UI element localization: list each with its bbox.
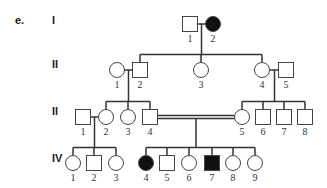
individual-III-6: 6 <box>256 110 271 137</box>
generation-labels: IIIIIIV <box>52 14 63 164</box>
individual-IV-9: 9 <box>248 156 263 183</box>
individual-IV-6: 6 <box>182 156 197 183</box>
individual-III-8: 8 <box>298 110 313 137</box>
female-circle-icon <box>226 156 241 171</box>
male-square-icon <box>298 110 313 125</box>
individual-number: 8 <box>303 126 308 137</box>
individual-number: 6 <box>261 126 266 137</box>
individual-number: 5 <box>284 79 289 90</box>
individual-III-5: 5 <box>235 110 250 137</box>
individual-number: 2 <box>211 33 216 44</box>
male-square-icon <box>279 63 294 78</box>
individual-number: 1 <box>81 126 86 137</box>
individual-II-5: 5 <box>279 63 294 90</box>
individual-number: 4 <box>260 79 265 90</box>
individual-II-3: 3 <box>194 63 209 90</box>
female-circle-icon <box>66 156 81 171</box>
male-square-icon <box>143 110 158 125</box>
male-square-icon <box>277 110 292 125</box>
individual-number: 2 <box>138 79 143 90</box>
female-circle-icon <box>182 156 197 171</box>
female-circle-icon <box>109 156 124 171</box>
individual-number: 4 <box>144 172 149 183</box>
male-square-icon <box>183 17 198 32</box>
part-label: e. <box>15 14 24 26</box>
individual-I-2: 2 <box>206 17 221 44</box>
individual-IV-4: 4 <box>139 156 154 183</box>
male-square-icon <box>76 110 91 125</box>
individual-number: 1 <box>71 172 76 183</box>
individual-number: 1 <box>115 79 120 90</box>
individual-IV-3: 3 <box>109 156 124 183</box>
generation-label: II <box>52 58 58 70</box>
individual-III-4: 4 <box>143 110 158 137</box>
affected-female-circle-icon <box>206 17 221 32</box>
individual-number: 3 <box>199 79 204 90</box>
individual-number: 7 <box>282 126 287 137</box>
pedigree-figure: e. IIIIIIV 121234512345678123456789 <box>0 0 327 188</box>
individual-number: 2 <box>104 126 109 137</box>
individual-III-2: 2 <box>99 110 114 137</box>
individual-number: 2 <box>92 172 97 183</box>
generation-label: I <box>52 14 55 26</box>
female-circle-icon <box>248 156 263 171</box>
individual-number: 5 <box>240 126 245 137</box>
male-square-icon <box>87 156 102 171</box>
individual-II-2: 2 <box>133 63 148 90</box>
female-circle-icon <box>194 63 209 78</box>
male-square-icon <box>256 110 271 125</box>
female-circle-icon <box>255 63 270 78</box>
individual-II-1: 1 <box>110 63 125 90</box>
individual-III-7: 7 <box>277 110 292 137</box>
pedigree-chart: e. IIIIIIV 121234512345678123456789 <box>0 0 327 188</box>
female-circle-icon <box>110 63 125 78</box>
individual-IV-5: 5 <box>160 156 175 183</box>
male-square-icon <box>133 63 148 78</box>
male-square-icon <box>160 156 175 171</box>
individual-IV-7: 7 <box>205 156 220 183</box>
individual-II-4: 4 <box>255 63 270 90</box>
generation-label: IV <box>52 152 63 164</box>
individual-number: 9 <box>253 172 258 183</box>
individual-III-1: 1 <box>76 110 91 137</box>
female-circle-icon <box>121 110 136 125</box>
individual-number: 7 <box>210 172 215 183</box>
individual-IV-8: 8 <box>226 156 241 183</box>
individual-I-1: 1 <box>183 17 198 44</box>
individual-III-3: 3 <box>121 110 136 137</box>
generation-label: II <box>52 105 58 117</box>
female-circle-icon <box>99 110 114 125</box>
individuals: 121234512345678123456789 <box>66 17 313 183</box>
affected-male-square-icon <box>205 156 220 171</box>
individual-number: 5 <box>165 172 170 183</box>
individual-IV-2: 2 <box>87 156 102 183</box>
individual-number: 3 <box>126 126 131 137</box>
individual-number: 6 <box>187 172 192 183</box>
individual-number: 1 <box>188 33 193 44</box>
female-circle-icon <box>235 110 250 125</box>
individual-number: 3 <box>114 172 119 183</box>
affected-female-circle-icon <box>139 156 154 171</box>
individual-number: 4 <box>148 126 153 137</box>
individual-IV-1: 1 <box>66 156 81 183</box>
individual-number: 8 <box>231 172 236 183</box>
